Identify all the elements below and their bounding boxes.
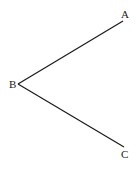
ray-bc [18,84,124,147]
point-label-c: C [121,148,128,160]
angle-diagram: A B C [0,0,136,169]
ray-ba [18,21,123,84]
point-label-a: A [121,8,129,20]
point-label-b: B [9,78,16,90]
